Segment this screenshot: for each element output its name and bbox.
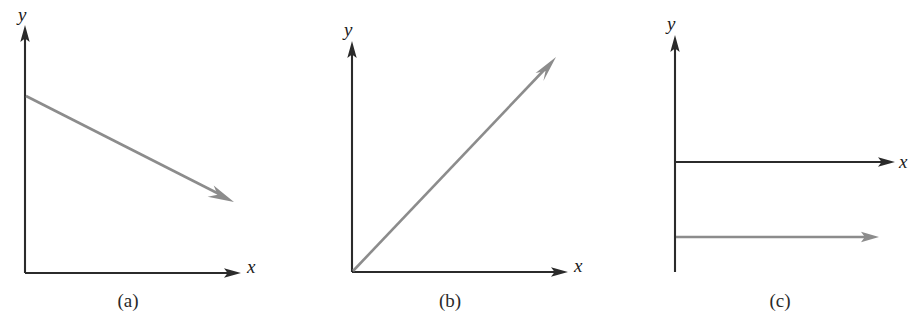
panel-c: y x (c)	[665, 13, 908, 312]
x-axis-b	[352, 267, 568, 276]
x-axis-a	[25, 268, 241, 277]
y-axis-a	[20, 25, 29, 273]
y-axis-b	[347, 41, 356, 272]
data-arrow-c	[676, 232, 879, 242]
data-line-b	[353, 68, 546, 271]
data-arrow-a	[26, 96, 234, 202]
data-line-a	[26, 96, 221, 195]
y-axis-label-c: y	[665, 13, 676, 34]
panel-caption-b: (b)	[439, 290, 461, 312]
data-arrow-b	[353, 57, 556, 271]
panel-a: y x (a)	[16, 4, 256, 312]
figure-canvas: y x (a) y x (b)	[0, 0, 911, 326]
x-axis-label-a: x	[246, 256, 256, 277]
data-arrowhead-icon-a	[208, 185, 234, 202]
figure-container: y x (a) y x (b)	[0, 0, 911, 326]
x-axis-label-b: x	[573, 255, 583, 276]
y-axis-label-a: y	[16, 4, 27, 25]
panel-b: y x (b)	[342, 19, 583, 312]
panel-caption-c: (c)	[769, 290, 790, 312]
panel-caption-a: (a)	[117, 290, 138, 312]
x-axis-label-c: x	[898, 151, 908, 172]
y-axis-label-b: y	[342, 19, 353, 40]
x-axis-c	[675, 157, 895, 166]
